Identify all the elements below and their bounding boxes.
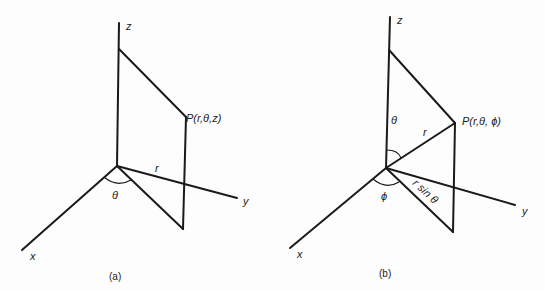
point-label-a: P(r,θ,z): [186, 112, 222, 124]
top-edge-b: [389, 50, 455, 123]
figure-a-cylindrical: z y x P(r,θ,z) r θ (a): [22, 20, 250, 282]
radius-label-b: r: [423, 126, 428, 138]
x-axis-a: [22, 166, 117, 250]
caption-a: (a): [109, 271, 121, 282]
coordinate-systems-diagram: z y x P(r,θ,z) r θ (a) z y x P(r,θ, ϕ) r…: [0, 0, 545, 291]
theta-label-b: θ: [391, 114, 397, 126]
theta-arc-b: [387, 150, 401, 158]
theta-label-a: θ: [112, 189, 118, 201]
diagram-canvas: z y x P(r,θ,z) r θ (a) z y x P(r,θ, ϕ) r…: [0, 0, 545, 291]
x-axis-b: [290, 168, 386, 248]
vertical-edge-b: [453, 123, 455, 232]
x-label-b: x: [296, 248, 303, 260]
phi-label-b: ϕ: [381, 190, 387, 202]
z-label-b: z: [396, 14, 403, 26]
z-axis-a: [117, 23, 119, 166]
y-label-b: y: [521, 205, 529, 217]
point-label-b: P(r,θ, ϕ): [462, 115, 501, 127]
x-label-a: x: [29, 250, 36, 262]
figure-b-spherical: z y x P(r,θ, ϕ) r θ ϕ r sin θ (b): [290, 14, 529, 279]
phi-arc-b: [373, 179, 399, 185]
radius-label-a: r: [155, 162, 160, 174]
caption-b: (b): [379, 268, 391, 279]
z-axis-b: [386, 17, 390, 168]
radius-line-b: [386, 123, 455, 168]
theta-arc-a: [104, 177, 131, 183]
projection-label-b: r sin θ: [411, 177, 441, 206]
z-label-a: z: [125, 20, 132, 32]
vertical-edge-a: [183, 117, 186, 229]
y-label-a: y: [242, 195, 250, 207]
top-edge-a: [119, 49, 186, 117]
